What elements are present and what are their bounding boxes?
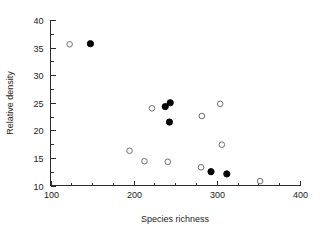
x-axis-tick-labels: 100200300400 [44,190,308,200]
x-tick-label: 300 [210,190,225,200]
x-axis-title: Species richness [141,214,210,224]
y-tick-label: 30 [33,71,43,81]
data-point-open [67,41,73,47]
data-point-open [217,101,223,107]
y-tick-label: 10 [33,182,43,192]
data-point-open [219,142,225,148]
data-point-open [165,159,171,165]
x-tick-label: 200 [127,190,142,200]
scatter-plot-figure: 10152025303540 100200300400 Species rich… [0,0,324,233]
y-tick-label: 15 [33,154,43,164]
data-point-open [127,148,133,154]
data-point-filled [167,100,173,106]
x-tick-label: 400 [293,190,308,200]
data-point-open [142,158,148,164]
y-axis-title: Relative density [5,71,15,135]
data-point-filled [87,41,93,47]
y-axis-tick-labels: 10152025303540 [33,16,43,192]
data-point-open [257,178,263,184]
plot-canvas: 10152025303540 100200300400 Species rich… [0,0,324,233]
data-point-filled [166,119,172,125]
y-tick-label: 35 [33,44,43,54]
data-point-open [199,113,205,119]
data-point-filled [224,171,230,177]
filled-circle-data-points [87,41,230,177]
open-circle-data-points [67,41,263,183]
y-tick-label: 40 [33,16,43,26]
x-tick-label: 100 [44,190,59,200]
y-tick-label: 25 [33,99,43,109]
y-tick-label: 20 [33,126,43,136]
data-point-filled [208,169,214,175]
data-point-open [198,164,204,170]
y-axis-major-ticks [51,21,56,187]
data-point-open [149,105,155,111]
